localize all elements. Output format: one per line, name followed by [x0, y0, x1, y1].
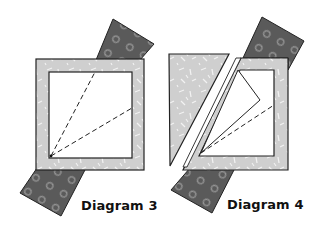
diagram-3 — [20, 19, 154, 216]
dark-fabric-strip-bottom — [20, 168, 86, 216]
dark-fabric-strip-top — [96, 19, 154, 60]
diagram-3-label: Diagram 3 — [81, 198, 158, 213]
corner-point — [50, 155, 53, 158]
inner-window — [49, 72, 132, 158]
diagram-4-label: Diagram 4 — [227, 197, 304, 212]
diagram-4 — [169, 17, 304, 213]
dark-fabric-strip-bottom — [171, 168, 235, 213]
